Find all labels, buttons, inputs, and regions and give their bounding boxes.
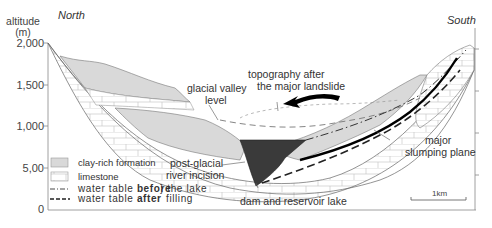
reservoir-lake [240,140,306,186]
label-incision-2: river incision [166,169,224,181]
label-slump-2: slumping plane [405,146,476,158]
cross-section-diagram [0,0,492,228]
y-tick-1000: 1,000 [0,120,44,132]
legend-clay-label: clay-rich formation [78,157,156,168]
label-topography-1: topography after [248,68,324,80]
label-slump-1: major [425,134,451,146]
legend-wt-after-label: water table after [78,193,162,204]
scale-bar-label: 1km [432,189,447,198]
right-axis [475,28,479,210]
y-tick-2000: 2,000 [0,37,44,49]
label-topography-2: the major landslide [257,80,345,92]
label-glacial-valley-2: level [205,94,227,106]
y-tick-1500: 1,500 [0,79,44,91]
landslide-arrow [283,94,340,108]
label-glacial-valley-1: glacial valley [187,82,247,94]
y-tick-0: 0 [0,203,44,215]
legend-limestone-label: limestone [78,171,119,182]
label-dam: dam and reservoir lake [240,195,347,207]
legend-clay-swatch [51,158,68,167]
label-lake-filling-2: filling [166,193,193,204]
legend-limestone-swatch [51,172,68,181]
direction-north: North [58,9,85,21]
label-incision-1: post-glacial [170,157,223,169]
direction-south: South [447,14,476,26]
y-tick-500: 5,00 [0,162,44,174]
